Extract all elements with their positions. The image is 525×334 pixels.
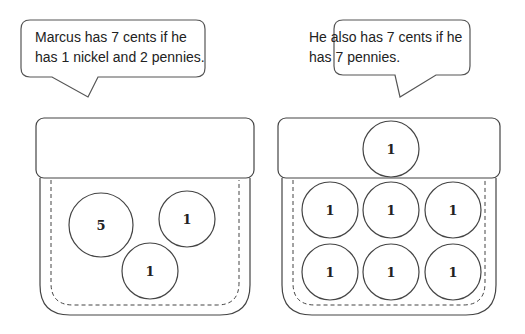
coin-value-label: 5	[96, 218, 105, 233]
coin-value-label: 1	[182, 212, 191, 227]
coin-value-label: 1	[386, 265, 395, 280]
bubble-left-line2: has 1 nickel and 2 pennies.	[35, 47, 205, 67]
nickel-coin: 5	[69, 193, 133, 257]
penny-coin: 1	[159, 191, 215, 247]
coin-value-label: 1	[145, 264, 154, 279]
penny-coin: 1	[122, 243, 178, 299]
penny-coin: 1	[425, 244, 481, 300]
coin-value-label: 1	[386, 142, 395, 157]
coin-value-label: 1	[325, 265, 334, 280]
penny-coin: 1	[302, 244, 358, 300]
penny-coin: 1	[425, 182, 481, 238]
purse-left-flap	[36, 118, 254, 178]
bubble-left-text: Marcus has 7 cents if he has 1 nickel an…	[35, 27, 205, 67]
penny-coin: 1	[363, 244, 419, 300]
coin-value-label: 1	[386, 203, 395, 218]
bubble-right-line1: He also has 7 cents if he	[309, 27, 462, 47]
penny-coin: 1	[363, 121, 419, 177]
coin-value-label: 1	[448, 265, 457, 280]
penny-coin: 1	[363, 182, 419, 238]
penny-coin: 1	[302, 182, 358, 238]
bubble-right-text: He also has 7 cents if he has 7 pennies.	[309, 27, 462, 67]
bubble-left-line1: Marcus has 7 cents if he	[35, 27, 205, 47]
coin-value-label: 1	[448, 203, 457, 218]
bubble-right-line2: has 7 pennies.	[309, 47, 462, 67]
coin-value-label: 1	[325, 203, 334, 218]
